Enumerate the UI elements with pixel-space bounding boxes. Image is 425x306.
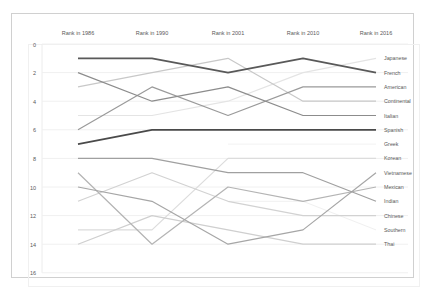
series-line-indian bbox=[78, 158, 376, 201]
series-label-vietnamese: Vietnamese bbox=[384, 170, 412, 176]
series-label-continental: Continental bbox=[384, 98, 411, 104]
series-line-american bbox=[78, 87, 376, 130]
y-tick-label: 16 bbox=[30, 270, 36, 276]
series-label-japanese: Japanese bbox=[384, 55, 407, 61]
x-category-label: Rank in 2016 bbox=[360, 30, 392, 36]
y-tick-label: 12 bbox=[30, 213, 36, 219]
y-tick-label: 6 bbox=[33, 127, 36, 133]
series-end-labels: JapaneseFrenchAmericanContinentalItalian… bbox=[384, 55, 412, 247]
bump-chart: 0246810121416 Rank in 1986Rank in 1990Ra… bbox=[0, 0, 425, 306]
series-line-italian bbox=[78, 73, 376, 116]
x-category-label: Rank in 2010 bbox=[287, 30, 319, 36]
y-tick-label: 10 bbox=[30, 185, 36, 191]
series-label-greek: Greek bbox=[384, 141, 399, 147]
series-label-thai: Thai bbox=[384, 241, 394, 247]
series-line-korean bbox=[78, 158, 376, 230]
series-label-chinese: Chinese bbox=[384, 213, 403, 219]
y-tick-label: 8 bbox=[33, 156, 36, 162]
y-tick-label: 4 bbox=[33, 99, 36, 105]
series-label-southern: Southern bbox=[384, 227, 406, 233]
series-label-korean: Korean bbox=[384, 155, 401, 161]
series-label-french: French bbox=[384, 70, 401, 76]
series-label-italian: Italian bbox=[384, 113, 398, 119]
series-line-chinese bbox=[78, 173, 376, 216]
y-tick-label: 0 bbox=[33, 42, 36, 48]
series-line-french bbox=[78, 58, 376, 72]
x-category-label: Rank in 1986 bbox=[62, 30, 94, 36]
y-axis-ticks: 0246810121416 bbox=[30, 42, 36, 277]
series-label-mexican: Mexican bbox=[384, 184, 404, 190]
x-category-label: Rank in 1990 bbox=[136, 30, 168, 36]
series-line-spanish bbox=[78, 130, 376, 144]
y-tick-label: 2 bbox=[33, 70, 36, 76]
series-label-american: American bbox=[384, 84, 406, 90]
series-label-spanish: Spanish bbox=[384, 127, 403, 133]
x-axis-category-labels: Rank in 1986Rank in 1990Rank in 2001Rank… bbox=[62, 30, 392, 36]
x-category-label: Rank in 2001 bbox=[212, 30, 244, 36]
y-tick-label: 14 bbox=[30, 242, 36, 248]
series-lines bbox=[78, 58, 376, 244]
series-label-indian: Indian bbox=[384, 198, 398, 204]
